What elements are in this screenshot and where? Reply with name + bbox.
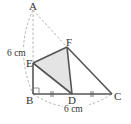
segment-AF-dashed (33, 10, 67, 47)
label-E: E (26, 57, 33, 69)
dimension-label-AB: 6 cm (7, 48, 26, 58)
segment-FC (67, 47, 112, 94)
folding-diagram: A B C D E F 6 cm 6 cm (0, 0, 131, 124)
label-F: F (66, 36, 72, 48)
label-A: A (29, 0, 37, 12)
label-C: C (114, 90, 121, 102)
dimension-label-BC: 6 cm (64, 104, 83, 114)
right-angle-mark (33, 88, 39, 94)
label-B: B (26, 94, 33, 106)
